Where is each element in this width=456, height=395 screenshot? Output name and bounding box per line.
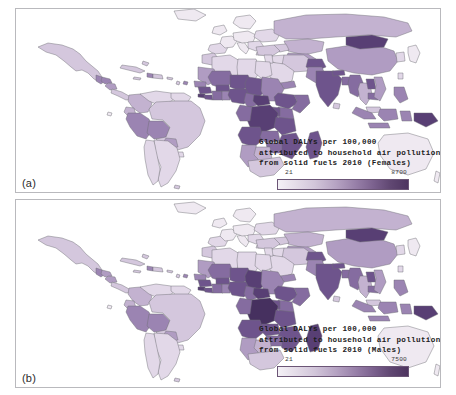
region-lesser-antilles bbox=[176, 81, 180, 85]
figure-root: Global DALYs per 100,000 attributed to h… bbox=[0, 0, 456, 395]
region-egypt bbox=[255, 254, 272, 272]
region-congo-gabon bbox=[236, 298, 252, 314]
colorbar-gradient bbox=[277, 366, 409, 377]
region-cape-verde bbox=[183, 274, 188, 278]
region-greenland-edge bbox=[174, 202, 206, 214]
region-japan bbox=[408, 238, 420, 256]
region-jamaica bbox=[133, 270, 141, 273]
region-jamaica bbox=[133, 77, 141, 80]
region-dominican-republic bbox=[153, 267, 163, 272]
region-vietnam bbox=[374, 270, 386, 294]
region-indonesia-borneo bbox=[378, 302, 398, 314]
region-laos bbox=[366, 79, 376, 89]
region-dominican-republic bbox=[153, 74, 163, 79]
region-egypt bbox=[255, 61, 272, 79]
region-sierra-leone bbox=[198, 94, 205, 98]
region-taiwan bbox=[398, 73, 403, 79]
colorbar-ticks: 21 8700 bbox=[277, 169, 409, 179]
region-mongolia bbox=[346, 35, 388, 49]
region-sierra-leone bbox=[198, 287, 205, 291]
region-liberia bbox=[204, 95, 213, 100]
region-italy bbox=[237, 42, 249, 54]
region-indonesia-java bbox=[368, 316, 390, 321]
region-koreas bbox=[396, 52, 405, 62]
panel-a: Global DALYs per 100,000 attributed to h… bbox=[15, 8, 441, 193]
region-vietnam bbox=[374, 77, 386, 101]
region-uk-ireland bbox=[212, 25, 227, 35]
region-cuba bbox=[120, 258, 145, 266]
region-papua-new-guinea bbox=[414, 306, 438, 320]
region-scandinavia bbox=[233, 15, 256, 29]
legend-line-1: Global DALYs per 100,000 bbox=[259, 324, 441, 335]
region-senegal-gambia bbox=[194, 81, 206, 87]
colorbar-tick-max: 8700 bbox=[391, 169, 407, 176]
region-india bbox=[316, 71, 342, 107]
region-nicaragua bbox=[105, 83, 117, 90]
region-indonesia-java bbox=[368, 123, 390, 128]
region-bahamas bbox=[142, 254, 149, 259]
legend-line-1: Global DALYs per 100,000 bbox=[259, 137, 441, 148]
colorbar-ticks: 21 7500 bbox=[277, 356, 409, 366]
region-mongolia bbox=[346, 228, 388, 242]
region-sri-lanka bbox=[333, 296, 340, 302]
colorbar-gradient bbox=[277, 179, 409, 190]
region-senegal-gambia bbox=[194, 274, 206, 280]
region-cape-verde bbox=[183, 81, 188, 85]
region-scandinavia bbox=[233, 208, 256, 222]
region-japan bbox=[408, 45, 420, 63]
region-philippines bbox=[394, 280, 408, 296]
region-sri-lanka bbox=[333, 103, 340, 109]
region-russia bbox=[274, 14, 412, 39]
region-italy bbox=[237, 235, 249, 247]
legend-line-2: attributed to household air pollution bbox=[259, 335, 441, 346]
region-indonesia-sulawesi bbox=[400, 304, 412, 314]
region-galapagos bbox=[107, 112, 112, 116]
region-guinea bbox=[198, 87, 212, 94]
region-russia bbox=[274, 207, 412, 232]
colorbar-tick-max: 7500 bbox=[391, 356, 407, 363]
region-mexico bbox=[38, 43, 102, 82]
region-indonesia-sulawesi bbox=[400, 111, 412, 121]
legend-line-2: attributed to household air pollution bbox=[259, 148, 441, 159]
region-burkina-faso bbox=[216, 85, 230, 91]
region-nepal bbox=[332, 70, 345, 76]
region-puerto-rico bbox=[167, 77, 173, 80]
region-uk-ireland bbox=[212, 218, 227, 228]
legend-line-3: from solid fuels 2010 (Males) bbox=[259, 345, 441, 356]
region-nicaragua bbox=[105, 276, 117, 283]
region-mexico bbox=[38, 236, 102, 275]
region-kazakhstan bbox=[284, 232, 324, 248]
legend-males: Global DALYs per 100,000 attributed to h… bbox=[259, 324, 441, 377]
panel-label-b: (b) bbox=[22, 372, 36, 384]
region-india bbox=[316, 264, 342, 300]
colorbar-tick-min: 21 bbox=[285, 356, 293, 363]
region-congo-gabon bbox=[236, 105, 252, 121]
region-ivory-coast bbox=[212, 91, 223, 100]
region-burkina-faso bbox=[216, 278, 230, 284]
region-haiti bbox=[147, 266, 153, 271]
region-ivory-coast bbox=[212, 284, 223, 293]
region-bahamas bbox=[142, 61, 149, 66]
legend-line-3: from solid fuels 2010 (Females) bbox=[259, 158, 441, 169]
region-haiti bbox=[147, 73, 153, 78]
colorbar-tick-min: 21 bbox=[285, 169, 293, 176]
region-laos bbox=[366, 272, 376, 282]
panel-b: Global DALYs per 100,000 attributed to h… bbox=[15, 199, 441, 388]
region-galapagos bbox=[107, 305, 112, 309]
panel-label-a: (a) bbox=[22, 177, 36, 189]
region-philippines bbox=[394, 87, 408, 103]
region-taiwan bbox=[398, 266, 403, 272]
region-nepal bbox=[332, 263, 345, 269]
region-indonesia-borneo bbox=[378, 109, 398, 121]
region-guinea bbox=[198, 280, 212, 287]
region-liberia bbox=[204, 288, 213, 293]
region-falklands bbox=[174, 185, 180, 189]
legend-females: Global DALYs per 100,000 attributed to h… bbox=[259, 137, 441, 190]
region-kazakhstan bbox=[284, 39, 324, 55]
region-puerto-rico bbox=[167, 270, 173, 273]
region-cuba bbox=[120, 65, 145, 73]
region-koreas bbox=[396, 245, 405, 255]
region-greenland-edge bbox=[174, 9, 206, 21]
region-lesser-antilles bbox=[176, 274, 180, 278]
region-papua-new-guinea bbox=[414, 113, 438, 127]
